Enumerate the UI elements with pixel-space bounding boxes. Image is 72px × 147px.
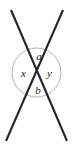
angle-label-y: y <box>47 67 52 78</box>
angle-label-b: b <box>35 85 41 96</box>
geometry-figure: a x y b <box>0 0 72 147</box>
angle-label-x: x <box>21 67 26 78</box>
figure-canvas <box>0 0 72 147</box>
angle-label-a: a <box>36 50 42 61</box>
